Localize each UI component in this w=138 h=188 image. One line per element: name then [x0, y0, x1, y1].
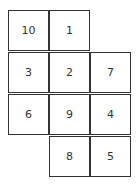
grid-cell: 5	[90, 136, 131, 177]
grid-cell: 3	[8, 52, 49, 93]
grid-cell: 9	[49, 94, 90, 135]
grid-cell: 7	[90, 52, 131, 93]
grid-cell: 4	[90, 94, 131, 135]
grid-cell: 8	[49, 136, 90, 177]
grid-cell: 6	[8, 94, 49, 135]
grid-cell: 10	[8, 10, 49, 51]
grid-cell: 1	[49, 10, 90, 51]
grid-cell: 2	[49, 52, 90, 93]
